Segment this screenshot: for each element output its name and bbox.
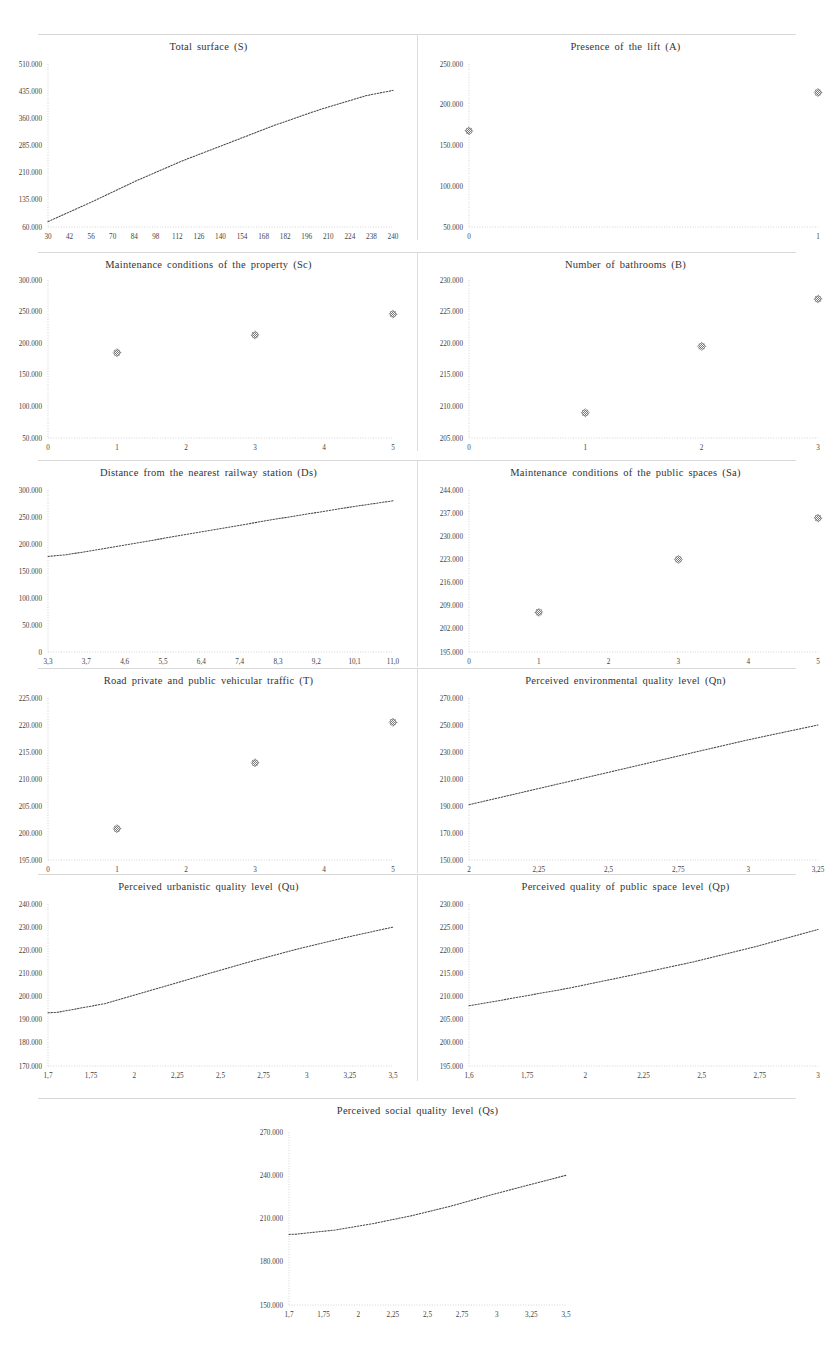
svg-text:215.000: 215.000 bbox=[440, 371, 464, 379]
svg-text:182: 182 bbox=[280, 233, 291, 241]
svg-text:205.000: 205.000 bbox=[440, 1016, 464, 1024]
svg-text:3,25: 3,25 bbox=[525, 1311, 538, 1319]
svg-text:3: 3 bbox=[253, 444, 257, 452]
svg-text:1: 1 bbox=[584, 444, 588, 452]
svg-text:200.000: 200.000 bbox=[440, 101, 464, 109]
chart-title: Perceived social quality level (Qs) bbox=[209, 1099, 626, 1118]
svg-text:2: 2 bbox=[184, 866, 188, 874]
svg-text:240: 240 bbox=[388, 233, 399, 241]
chart-title: Presence of the lift (A) bbox=[417, 35, 834, 54]
svg-text:2,75: 2,75 bbox=[456, 1311, 469, 1319]
svg-text:3,5: 3,5 bbox=[562, 1311, 571, 1319]
svg-text:2,5: 2,5 bbox=[216, 1072, 225, 1080]
svg-text:230.000: 230.000 bbox=[440, 749, 464, 757]
svg-text:220.000: 220.000 bbox=[19, 947, 43, 955]
svg-text:140: 140 bbox=[215, 233, 226, 241]
figure-sheet: Total surface (S) 60.000135.000210.00028… bbox=[0, 0, 834, 1348]
svg-text:150.000: 150.000 bbox=[440, 142, 464, 150]
svg-text:11,0: 11,0 bbox=[387, 658, 400, 666]
svg-text:3,25: 3,25 bbox=[812, 866, 825, 874]
svg-text:0: 0 bbox=[467, 233, 471, 241]
chart-panel-distance-railway: Distance from the nearest railway statio… bbox=[0, 461, 417, 676]
svg-text:4,6: 4,6 bbox=[120, 658, 129, 666]
svg-text:30: 30 bbox=[44, 233, 52, 241]
svg-text:244.000: 244.000 bbox=[440, 487, 464, 495]
svg-text:3: 3 bbox=[816, 1072, 820, 1080]
svg-text:50.000: 50.000 bbox=[22, 622, 42, 630]
svg-text:230.000: 230.000 bbox=[440, 277, 464, 285]
svg-text:250.000: 250.000 bbox=[440, 61, 464, 69]
svg-text:200.000: 200.000 bbox=[19, 993, 43, 1001]
svg-text:250.000: 250.000 bbox=[19, 514, 43, 522]
svg-text:3: 3 bbox=[816, 444, 820, 452]
svg-text:2,5: 2,5 bbox=[423, 1311, 432, 1319]
svg-text:210.000: 210.000 bbox=[440, 993, 464, 1001]
svg-text:220.000: 220.000 bbox=[440, 947, 464, 955]
svg-text:3,5: 3,5 bbox=[389, 1072, 398, 1080]
svg-text:5: 5 bbox=[391, 444, 395, 452]
chart-panel-social-quality: Perceived social quality level (Qs) 150.… bbox=[209, 1099, 626, 1333]
svg-text:237.000: 237.000 bbox=[440, 510, 464, 518]
svg-text:2: 2 bbox=[467, 866, 471, 874]
svg-text:4: 4 bbox=[322, 444, 326, 452]
svg-text:1,75: 1,75 bbox=[85, 1072, 98, 1080]
svg-text:250.000: 250.000 bbox=[440, 722, 464, 730]
chart-title: Perceived urbanistic quality level (Qu) bbox=[0, 875, 417, 894]
svg-text:1,6: 1,6 bbox=[465, 1072, 474, 1080]
svg-text:3: 3 bbox=[677, 658, 681, 666]
chart-panel-presence-lift: Presence of the lift (A) 50.000100.00015… bbox=[417, 35, 834, 249]
svg-text:2: 2 bbox=[132, 1072, 136, 1080]
svg-text:2: 2 bbox=[356, 1311, 360, 1319]
chart-title: Maintenance conditions of the property (… bbox=[0, 253, 417, 272]
svg-text:0: 0 bbox=[467, 444, 471, 452]
plot-area: 50.000100.000150.000200.000250.00001 bbox=[417, 54, 834, 249]
svg-text:216.000: 216.000 bbox=[440, 579, 464, 587]
plot-area: 195.000202.000209.000216.000223.000230.0… bbox=[417, 480, 834, 676]
svg-text:210.000: 210.000 bbox=[260, 1215, 284, 1223]
chart-title: Distance from the nearest railway statio… bbox=[0, 461, 417, 480]
svg-text:195.000: 195.000 bbox=[19, 857, 43, 865]
plot-area: 050.000100.000150.000200.000250.000300.0… bbox=[0, 480, 417, 676]
chart-title: Road private and public vehicular traffi… bbox=[0, 669, 417, 688]
svg-text:2,5: 2,5 bbox=[604, 866, 613, 874]
svg-text:2: 2 bbox=[607, 658, 611, 666]
svg-text:9,2: 9,2 bbox=[312, 658, 321, 666]
plot-area: 195.000200.000205.000210.000215.000220.0… bbox=[0, 688, 417, 882]
svg-text:2,25: 2,25 bbox=[387, 1311, 400, 1319]
svg-text:168: 168 bbox=[258, 233, 269, 241]
svg-text:3,7: 3,7 bbox=[82, 658, 91, 666]
svg-text:180.000: 180.000 bbox=[260, 1258, 284, 1266]
chart-panel-maintenance-public-spaces: Maintenance conditions of the public spa… bbox=[417, 461, 834, 676]
svg-text:3: 3 bbox=[746, 866, 750, 874]
chart-row-1: Total surface (S) 60.000135.000210.00028… bbox=[0, 35, 834, 249]
svg-text:2,75: 2,75 bbox=[754, 1072, 767, 1080]
plot-area: 60.000135.000210.000285.000360.000435.00… bbox=[0, 54, 417, 249]
svg-text:150.000: 150.000 bbox=[260, 1302, 284, 1310]
plot-area: 50.000100.000150.000200.000250.000300.00… bbox=[0, 272, 417, 460]
svg-text:230.000: 230.000 bbox=[440, 533, 464, 541]
svg-text:3,3: 3,3 bbox=[44, 658, 53, 666]
chart-panel-environmental-quality: Perceived environmental quality level (Q… bbox=[417, 669, 834, 882]
svg-text:2: 2 bbox=[584, 1072, 588, 1080]
svg-text:100.000: 100.000 bbox=[19, 595, 43, 603]
svg-text:154: 154 bbox=[237, 233, 248, 241]
svg-text:2,75: 2,75 bbox=[257, 1072, 270, 1080]
svg-text:100.000: 100.000 bbox=[440, 183, 464, 191]
svg-text:5: 5 bbox=[391, 866, 395, 874]
svg-text:225.000: 225.000 bbox=[440, 308, 464, 316]
plot-area: 150.000180.000210.000240.000270.0001,71,… bbox=[209, 1118, 626, 1333]
svg-text:0: 0 bbox=[46, 866, 50, 874]
svg-text:112: 112 bbox=[172, 233, 183, 241]
svg-text:2,25: 2,25 bbox=[637, 1072, 650, 1080]
svg-text:240.000: 240.000 bbox=[19, 901, 43, 909]
svg-text:510.000: 510.000 bbox=[19, 61, 43, 69]
svg-text:225.000: 225.000 bbox=[19, 695, 43, 703]
svg-text:210.000: 210.000 bbox=[440, 403, 464, 411]
chart-title: Number of bathrooms (B) bbox=[417, 253, 834, 272]
svg-text:60.000: 60.000 bbox=[22, 224, 42, 232]
svg-text:2,5: 2,5 bbox=[697, 1072, 706, 1080]
chart-panel-total-surface: Total surface (S) 60.000135.000210.00028… bbox=[0, 35, 417, 249]
svg-text:50.000: 50.000 bbox=[443, 224, 463, 232]
chart-row-3: Distance from the nearest railway statio… bbox=[0, 461, 834, 676]
svg-text:170.000: 170.000 bbox=[19, 1063, 43, 1071]
